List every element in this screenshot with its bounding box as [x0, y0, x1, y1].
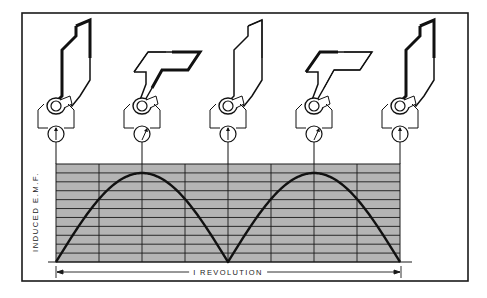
emf-diagram [0, 0, 487, 298]
emf-grid [56, 164, 400, 262]
coil-loop [396, 20, 434, 108]
meter-icon [306, 126, 322, 142]
slip-rings [133, 96, 158, 114]
slip-rings [391, 96, 416, 114]
slip-rings [219, 96, 244, 114]
coil-loop [134, 52, 200, 102]
meter-icon [48, 126, 64, 142]
meter-icon [392, 126, 408, 142]
coil-loop [224, 20, 262, 108]
generator-unit-4 [296, 52, 372, 164]
slip-rings [305, 96, 330, 114]
generator-unit-2 [124, 52, 200, 164]
generator-unit-5 [382, 20, 434, 164]
meter-icon [220, 126, 236, 142]
axis-label-induced-emf: INDUCED E.M.F. [31, 172, 40, 252]
meter-icon [134, 126, 150, 142]
revolution-label: I REVOLUTION [189, 268, 267, 277]
coil-loop [52, 20, 90, 108]
generator-unit-1 [38, 20, 90, 164]
generator-unit-3 [210, 20, 262, 164]
slip-rings [47, 96, 72, 114]
coil-loop [306, 52, 372, 102]
